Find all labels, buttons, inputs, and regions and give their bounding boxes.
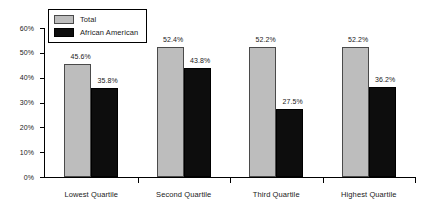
x-axis-label-second-quartile: Second Quartile [138,191,231,199]
bar-total [64,64,91,177]
bar-african-american [184,68,211,177]
bar-value-label: 43.8% [182,57,219,64]
bar-african-american [276,109,303,177]
bar-value-label: 45.6% [62,53,99,60]
y-axis-tick [40,177,45,178]
legend-swatch-total-icon [54,15,74,24]
x-axis-tick [415,178,416,183]
x-axis-tick [138,178,139,183]
y-axis-tick-label: 0% [0,174,34,181]
bar-total [342,47,369,177]
x-axis-label-highest-quartile: Highest Quartile [323,191,416,199]
bar-value-label: 27.5% [274,98,311,105]
bar-african-american [369,87,396,177]
bar-value-label: 52.2% [340,36,377,43]
plot-area: 45.6%35.8%52.4%43.8%52.2%27.5%52.2%36.2% [45,28,415,177]
y-axis-tick-label: 10% [0,149,34,156]
bar-value-label: 35.8% [89,77,126,84]
y-axis-tick-label: 50% [0,49,34,56]
x-axis-tick [323,178,324,183]
legend-item-total: Total [54,14,138,25]
bar-value-label: 36.2% [367,76,404,83]
bar-total [157,47,184,177]
y-axis-tick-label: 30% [0,99,34,106]
x-axis-label-third-quartile: Third Quartile [230,191,323,199]
legend-swatch-african-american-icon [54,28,74,37]
legend-label-total: Total [80,16,96,24]
bar-chart: 0%10%20%30%40%50%60% 45.6%35.8%52.4%43.8… [0,0,431,212]
chart-legend: Total African American [48,9,147,43]
x-axis-label-lowest-quartile: Lowest Quartile [45,191,138,199]
x-axis-tick [230,178,231,183]
bar-value-label: 52.2% [247,36,284,43]
legend-item-african-american: African American [54,27,138,38]
bar-value-label: 52.4% [155,36,192,43]
bar-african-american [91,88,118,177]
y-axis-tick-label: 60% [0,25,34,32]
bar-total [249,47,276,177]
y-axis-tick-label: 40% [0,74,34,81]
y-axis-tick-label: 20% [0,124,34,131]
legend-label-african-american: African American [80,29,138,37]
